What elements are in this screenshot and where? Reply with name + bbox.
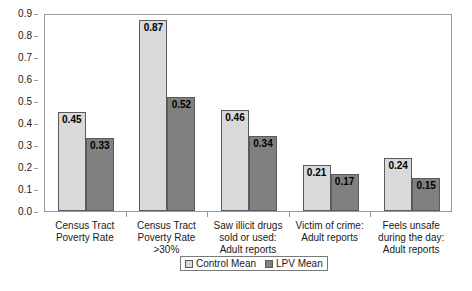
plot-area: 0.450.330.870.520.460.340.210.170.240.15	[44, 14, 452, 212]
bar-slot: 0.21	[303, 15, 331, 211]
x-axis-category-label: Feels unsafe during the day: Adult repor…	[370, 220, 452, 256]
bar	[167, 97, 195, 211]
bar-value-label: 0.46	[221, 113, 249, 123]
y-tick-mark	[34, 190, 38, 191]
bar	[221, 110, 249, 211]
y-tick-mark	[34, 102, 38, 103]
y-tick-label: 0.8	[18, 31, 32, 41]
y-tick-mark	[34, 146, 38, 147]
bar-value-label: 0.15	[412, 181, 440, 191]
bar-slot: 0.87	[139, 15, 167, 211]
bar-value-label: 0.21	[303, 168, 331, 178]
bar	[58, 112, 86, 211]
bar-slot: 0.24	[384, 15, 412, 211]
category-separator-tick	[289, 212, 290, 217]
bar-group: 0.450.33	[45, 15, 127, 211]
bar-value-label: 0.45	[58, 115, 86, 125]
bar-group-bars: 0.460.34	[208, 15, 290, 211]
bar-group-bars: 0.240.15	[371, 15, 453, 211]
bar-slot: 0.15	[412, 15, 440, 211]
bar-group-bars: 0.210.17	[290, 15, 372, 211]
legend-label: Control Mean	[196, 259, 256, 269]
x-axis-category-label: Victim of crime: Adult reports	[289, 220, 371, 244]
y-tick-mark	[34, 124, 38, 125]
bar-group: 0.240.15	[371, 15, 453, 211]
y-tick-label: 0.9	[18, 9, 32, 19]
legend-entry[interactable]: LPV Mean	[265, 259, 323, 269]
x-axis-category-label: Census Tract Poverty Rate >30%	[126, 220, 208, 256]
bar-slot: 0.34	[249, 15, 277, 211]
bar-slot: 0.33	[86, 15, 114, 211]
bar-group: 0.870.52	[127, 15, 209, 211]
category-separator-tick	[126, 212, 127, 217]
bar-value-label: 0.87	[139, 23, 167, 33]
y-tick-label: 0.5	[18, 97, 32, 107]
bar	[139, 20, 167, 211]
chart-legend: Control MeanLPV Mean	[180, 256, 328, 271]
bar-value-label: 0.17	[331, 177, 359, 187]
legend-swatch-icon	[185, 260, 193, 268]
y-tick-mark	[34, 212, 38, 213]
bar-slot: 0.17	[331, 15, 359, 211]
y-tick-label: 0.1	[18, 185, 32, 195]
bar-group: 0.460.34	[208, 15, 290, 211]
y-tick-mark	[34, 168, 38, 169]
bar-value-label: 0.24	[384, 161, 412, 171]
bar-value-label: 0.52	[167, 100, 195, 110]
y-tick-label: 0.2	[18, 163, 32, 173]
bar-value-label: 0.33	[86, 141, 114, 151]
y-tick-mark	[34, 58, 38, 59]
y-tick-label: 0.6	[18, 75, 32, 85]
y-tick-label: 0.7	[18, 53, 32, 63]
x-axis-category-label: Saw illicit drugs sold or used: Adult re…	[207, 220, 289, 256]
legend-swatch-icon	[265, 260, 273, 268]
y-tick-label: 0.3	[18, 141, 32, 151]
category-separator-tick	[370, 212, 371, 217]
y-tick-label: 0.0	[18, 207, 32, 217]
plot-inner: 0.450.330.870.520.460.340.210.170.240.15	[45, 15, 451, 211]
bar-value-label: 0.34	[249, 139, 277, 149]
x-axis-category-label: Census Tract Poverty Rate	[44, 220, 126, 244]
y-tick-mark	[34, 80, 38, 81]
legend-entry[interactable]: Control Mean	[185, 259, 256, 269]
bar-group-bars: 0.450.33	[45, 15, 127, 211]
category-separator-tick	[207, 212, 208, 217]
bar-slot: 0.46	[221, 15, 249, 211]
bar-chart: 0.00.10.20.30.40.50.60.70.80.9 0.450.330…	[0, 0, 472, 291]
bar-group: 0.210.17	[290, 15, 372, 211]
bar-slot: 0.52	[167, 15, 195, 211]
legend-label: LPV Mean	[276, 259, 323, 269]
y-tick-mark	[34, 36, 38, 37]
y-tick-label: 0.4	[18, 119, 32, 129]
bar-slot: 0.45	[58, 15, 86, 211]
y-axis: 0.00.10.20.30.40.50.60.70.80.9	[0, 14, 38, 212]
bar-group-bars: 0.870.52	[127, 15, 209, 211]
y-tick-mark	[34, 14, 38, 15]
